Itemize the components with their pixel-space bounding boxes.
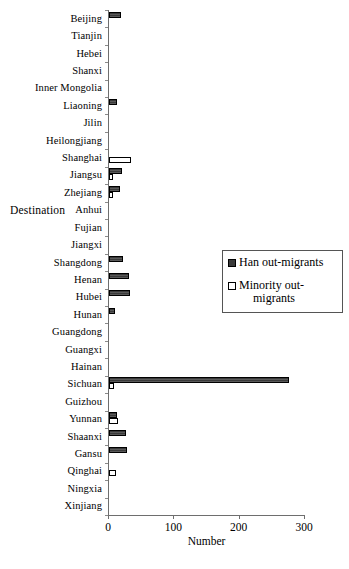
legend-label-minority-line1: Minority out-	[239, 278, 304, 292]
y-axis-tick	[105, 271, 108, 272]
y-axis-tick	[105, 376, 108, 377]
x-axis-tick-label: 300	[295, 521, 312, 533]
bar-han	[109, 256, 123, 262]
category-label: Shanxi	[72, 66, 102, 76]
category-label: Jiangxi	[71, 240, 102, 250]
category-label: Beijing	[70, 14, 102, 24]
x-axis-tick-label: 0	[105, 521, 111, 533]
y-axis-tick	[105, 27, 108, 28]
category-label: Guizhou	[65, 397, 102, 407]
bar-han	[109, 12, 121, 18]
bar-han	[109, 377, 289, 383]
category-label: Shanghai	[62, 153, 102, 163]
category-label: Hebei	[76, 49, 102, 59]
bar-han	[109, 430, 126, 436]
category-label: Henan	[74, 275, 102, 285]
y-axis-tick	[105, 428, 108, 429]
y-axis-tick	[105, 149, 108, 150]
y-axis-tick	[105, 498, 108, 499]
bar-han	[109, 447, 127, 453]
bar-minority	[109, 383, 114, 389]
y-axis-tick	[105, 97, 108, 98]
legend-swatch-minority-icon	[228, 282, 236, 290]
category-label: Shaanxi	[67, 432, 102, 442]
legend-label-minority: Minority out-migrants	[239, 279, 304, 305]
legend-swatch-han-icon	[228, 259, 236, 267]
category-label: Guangdong	[52, 327, 102, 337]
legend-item-han: Han out-migrants	[228, 256, 323, 269]
x-axis-tick-label: 100	[165, 521, 182, 533]
bar-han	[109, 99, 117, 105]
y-axis-line	[108, 10, 109, 515]
category-label: Yunnan	[69, 414, 102, 424]
y-axis-tick	[105, 236, 108, 237]
bar-chart: BeijingTianjinHebeiShanxiInner MongoliaL…	[0, 0, 349, 569]
bar-minority	[109, 174, 113, 180]
category-label: Inner Mongolia	[35, 83, 102, 93]
category-label: Shangdong	[54, 258, 102, 268]
category-label: Xinjiang	[64, 501, 102, 511]
y-axis-tick	[105, 463, 108, 464]
y-axis-tick	[105, 254, 108, 255]
bar-minority	[109, 418, 118, 424]
x-axis-tick	[108, 515, 109, 519]
y-axis-tick	[105, 45, 108, 46]
bar-minority	[109, 470, 116, 476]
category-label: Ningxia	[67, 484, 102, 494]
legend: Han out-migrants Minority out-migrants	[222, 250, 343, 313]
y-axis-tick	[105, 62, 108, 63]
y-axis-tick	[105, 10, 108, 11]
y-axis-tick	[105, 306, 108, 307]
category-label: Gansu	[75, 449, 102, 459]
x-axis-tick	[239, 515, 240, 519]
category-label: Tianjin	[71, 31, 102, 41]
y-axis-tick	[105, 445, 108, 446]
category-label: Liaoning	[63, 101, 102, 111]
y-axis-tick	[105, 202, 108, 203]
y-axis-tick	[105, 480, 108, 481]
y-axis-tick	[105, 184, 108, 185]
category-label: Hunan	[74, 310, 103, 320]
legend-item-minority: Minority out-migrants	[228, 279, 304, 305]
bar-han	[109, 308, 115, 314]
bar-han	[109, 290, 130, 296]
y-axis-tick	[105, 289, 108, 290]
category-label: Heilongjiang	[46, 136, 102, 146]
y-axis-tick	[105, 167, 108, 168]
y-axis-tick	[105, 80, 108, 81]
y-axis-tick	[105, 411, 108, 412]
category-label: Jiangsu	[70, 170, 102, 180]
legend-label-han: Han out-migrants	[239, 256, 323, 269]
x-axis-tick	[304, 515, 305, 519]
y-axis-tick	[105, 219, 108, 220]
category-label: Guangxi	[65, 345, 102, 355]
category-label: Jilin	[83, 118, 102, 128]
bar-minority	[109, 157, 131, 163]
x-axis-tick-label: 200	[230, 521, 247, 533]
bar-han	[109, 273, 129, 279]
category-label: Zhejiang	[64, 188, 102, 198]
y-axis-title: Destination	[10, 204, 65, 216]
category-label: Sichuan	[67, 379, 102, 389]
category-label: Hubei	[76, 292, 102, 302]
y-axis-tick	[105, 323, 108, 324]
category-label: Fujian	[75, 223, 102, 233]
y-axis-tick	[105, 393, 108, 394]
y-axis-tick	[105, 341, 108, 342]
y-axis-tick	[105, 114, 108, 115]
x-axis-title: Number	[108, 535, 305, 547]
y-axis-tick	[105, 358, 108, 359]
category-label: Anhui	[75, 205, 102, 215]
bar-minority	[109, 192, 113, 198]
x-axis-line	[108, 515, 305, 516]
x-axis-tick	[173, 515, 174, 519]
category-label: Hainan	[71, 362, 102, 372]
y-axis-tick	[105, 132, 108, 133]
category-label: Qinghai	[67, 466, 102, 476]
legend-label-minority-line2: migrants	[239, 292, 304, 305]
